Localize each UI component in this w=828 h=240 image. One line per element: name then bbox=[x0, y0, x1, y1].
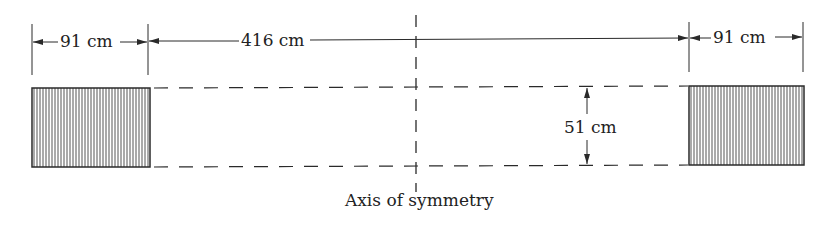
right-width-label: 91 cm bbox=[711, 27, 768, 47]
right-hatched-block bbox=[689, 86, 804, 165]
span-dimension bbox=[149, 38, 688, 41]
left-width-label: 91 cm bbox=[58, 31, 115, 51]
axis-of-symmetry-label: Axis of symmetry bbox=[343, 190, 496, 210]
span-label: 416 cm bbox=[239, 30, 307, 50]
height-label: 51 cm bbox=[562, 117, 619, 137]
left-hatched-block bbox=[32, 88, 150, 167]
extension-lines bbox=[32, 22, 803, 75]
bottom-dashed-line bbox=[154, 165, 688, 167]
top-dashed-line bbox=[154, 86, 688, 88]
